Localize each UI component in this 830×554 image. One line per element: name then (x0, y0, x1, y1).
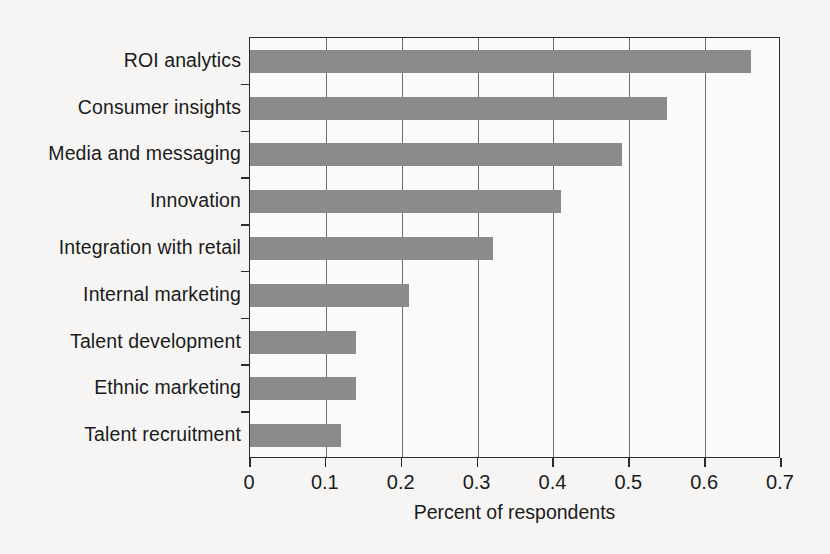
category-axis-labels: ROI analyticsConsumer insightsMedia and … (0, 37, 241, 458)
bar (250, 143, 622, 166)
bar (250, 190, 561, 213)
category-label: Media and messaging (0, 142, 241, 165)
category-label: Consumer insights (0, 96, 241, 119)
y-axis-tick (241, 364, 249, 366)
plot-area (249, 37, 780, 458)
x-axis-tick (401, 458, 403, 467)
category-label: Talent recruitment (0, 423, 241, 446)
x-axis-tick-label: 0.4 (517, 470, 587, 494)
x-axis-tick (325, 458, 327, 467)
x-axis-title: Percent of respondents (249, 500, 780, 524)
category-label: Integration with retail (0, 236, 241, 259)
x-axis-tick-label: 0.5 (593, 470, 663, 494)
x-axis-tick (628, 458, 630, 467)
x-axis-tick-label: 0.1 (290, 470, 360, 494)
x-axis-tick (780, 458, 782, 467)
x-axis-tick (249, 458, 251, 467)
category-label: Internal marketing (0, 283, 241, 306)
bar (250, 331, 356, 354)
bars-layer (250, 38, 779, 457)
y-axis-tick (241, 271, 249, 273)
y-axis-tick (241, 224, 249, 226)
x-axis-tick (477, 458, 479, 467)
x-axis-tick-label: 0.3 (442, 470, 512, 494)
category-label: ROI analytics (0, 49, 241, 72)
y-axis-tick (241, 318, 249, 320)
y-axis-tick (241, 84, 249, 86)
bar (250, 50, 751, 73)
bar (250, 284, 409, 307)
x-axis-tick (704, 458, 706, 467)
bar (250, 424, 341, 447)
y-axis-tick (241, 131, 249, 133)
x-axis-tick (552, 458, 554, 467)
category-label: Ethnic marketing (0, 376, 241, 399)
y-axis-tick (241, 177, 249, 179)
bar (250, 97, 667, 120)
bar-chart-figure: ROI analyticsConsumer insightsMedia and … (0, 0, 830, 554)
x-axis-tick-label: 0.2 (366, 470, 436, 494)
bar (250, 377, 356, 400)
y-axis-tick (241, 411, 249, 413)
x-axis-tick-label: 0.7 (745, 470, 815, 494)
x-axis-tick-label: 0.6 (669, 470, 739, 494)
category-label: Innovation (0, 189, 241, 212)
x-axis-tick-label: 0 (214, 470, 284, 494)
bar (250, 237, 493, 260)
category-label: Talent development (0, 330, 241, 353)
